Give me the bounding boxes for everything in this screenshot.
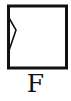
square-box	[9, 6, 67, 68]
figure-label: F	[0, 69, 71, 99]
